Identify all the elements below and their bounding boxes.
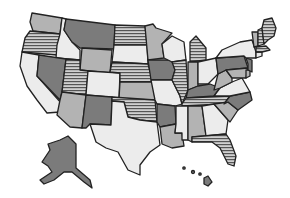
state-new-mexico[interactable] [82,95,112,128]
state-north-dakota[interactable] [114,25,147,45]
hawaii-island [192,171,195,174]
state-oregon[interactable] [22,31,60,55]
state-indiana[interactable] [188,62,198,90]
state-ohio[interactable] [198,58,218,84]
state-south-dakota[interactable] [112,45,148,64]
hawaii-island [183,167,185,169]
state-connecticut[interactable] [256,52,262,58]
state-massachusetts[interactable] [256,46,270,52]
state-florida[interactable] [192,134,236,166]
state-arizona[interactable] [57,92,86,128]
us-map [0,0,290,198]
state-hawaii[interactable] [204,176,212,186]
state-wyoming[interactable] [80,48,112,73]
state-iowa[interactable] [148,60,175,80]
state-colorado[interactable] [86,71,120,98]
hawaii-island [199,173,201,175]
state-new-york[interactable] [216,40,256,58]
state-maine[interactable] [262,18,276,44]
state-michigan[interactable] [190,36,206,62]
state-alaska[interactable] [40,136,92,188]
state-arkansas[interactable] [157,104,176,127]
